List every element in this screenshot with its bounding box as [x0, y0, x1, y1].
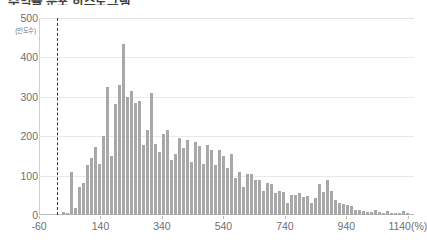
histogram-bar — [362, 211, 365, 215]
histogram-bar — [246, 174, 249, 215]
histogram-bar — [398, 213, 401, 215]
y-axis-tick-label: 100 — [4, 171, 38, 181]
histogram-bar — [374, 210, 377, 215]
y-axis-tick-label: 500 — [4, 13, 38, 23]
histogram-bar — [282, 192, 285, 215]
histogram-bar — [202, 164, 205, 215]
histogram-bar — [62, 212, 65, 215]
y-axis-tick-label: 200 — [4, 131, 38, 141]
histogram-bar — [154, 144, 157, 215]
x-axis-tick — [39, 216, 40, 219]
histogram-bar — [74, 208, 77, 215]
histogram-bar — [130, 91, 133, 215]
histogram-bar — [198, 146, 201, 215]
y-axis: (빈도수) 0100200300400500 — [0, 0, 38, 242]
histogram-bar — [94, 147, 97, 215]
histogram-bar — [278, 191, 281, 215]
histogram-bar — [350, 206, 353, 215]
gridline — [39, 136, 414, 137]
histogram-bar — [178, 138, 181, 215]
histogram-bar — [106, 87, 109, 215]
histogram-bar — [218, 150, 221, 215]
histogram-bar — [330, 191, 333, 215]
histogram-bar — [162, 134, 165, 215]
histogram-bar — [406, 213, 409, 215]
histogram-bar — [274, 193, 277, 215]
x-axis-tick-label: 940 — [338, 220, 356, 232]
gridline — [39, 18, 414, 19]
y-axis-tick-label: 0 — [4, 210, 38, 220]
histogram-bar — [298, 193, 301, 215]
x-axis-tick — [223, 216, 224, 219]
histogram-bar — [354, 210, 357, 215]
histogram-bar — [262, 191, 265, 215]
histogram-bar — [286, 203, 289, 215]
histogram-bar — [306, 196, 309, 215]
histogram-bar — [342, 204, 345, 215]
y-axis-tick-label: 400 — [4, 52, 38, 62]
histogram-bar — [318, 184, 321, 215]
histogram-bar — [222, 156, 225, 215]
y-axis-tick-label: 300 — [4, 92, 38, 102]
x-axis: -601403405407409401140(%) — [39, 216, 414, 242]
histogram-bar — [370, 212, 373, 215]
gridline — [39, 57, 414, 58]
histogram-bar — [394, 213, 397, 215]
histogram-bar — [142, 145, 145, 215]
histogram-bar — [114, 104, 117, 216]
histogram-bar — [186, 140, 189, 215]
histogram-bar — [146, 130, 149, 215]
histogram-bar — [346, 205, 349, 215]
histogram-bar — [194, 142, 197, 215]
histogram-bar — [294, 195, 297, 215]
x-axis-tick — [162, 216, 163, 219]
x-axis-tick-label: -60 — [31, 220, 46, 232]
histogram-bar — [170, 160, 173, 215]
histogram-bar — [302, 197, 305, 215]
histogram-bar — [226, 168, 229, 215]
x-axis-tick-label: 340 — [153, 220, 171, 232]
histogram-bar — [66, 213, 69, 215]
histogram-bar — [338, 203, 341, 215]
histogram-bar — [82, 183, 85, 215]
histogram-bar — [126, 97, 129, 215]
y-axis-line — [39, 18, 40, 215]
x-axis-tick-label: 540 — [215, 220, 233, 232]
histogram-bar — [118, 85, 121, 215]
histogram-bar — [134, 103, 137, 215]
histogram-bar — [310, 203, 313, 215]
histogram-bar — [150, 93, 153, 215]
histogram-bar — [358, 210, 361, 215]
histogram-bar — [98, 164, 101, 215]
histogram-bar — [322, 192, 325, 215]
histogram-bar — [214, 165, 217, 215]
histogram-bar — [138, 101, 141, 215]
histogram-bar — [290, 195, 293, 215]
histogram-bar — [314, 198, 317, 215]
y-axis-unit-label: (빈도수) — [2, 25, 36, 35]
histogram-bar — [158, 152, 161, 215]
histogram-bar — [86, 165, 89, 215]
x-axis-tick — [100, 216, 101, 219]
x-axis-tick — [408, 216, 409, 219]
histogram-bar — [386, 211, 389, 215]
histogram-bar — [382, 213, 385, 215]
histogram-bar — [206, 145, 209, 215]
histogram-bar — [238, 172, 241, 215]
histogram-bar — [242, 187, 245, 215]
x-axis-tick — [285, 216, 286, 219]
x-axis-tick-label: 140 — [92, 220, 110, 232]
histogram-bar — [402, 211, 405, 215]
histogram-bar — [122, 44, 125, 215]
histogram-bar — [230, 154, 233, 215]
histogram-bar — [182, 148, 185, 215]
histogram-bar — [70, 172, 73, 215]
x-axis-tick — [346, 216, 347, 219]
histogram-bar — [110, 156, 113, 215]
histogram-bar — [190, 162, 193, 215]
x-axis-tick-label: 740 — [276, 220, 294, 232]
histogram-bar — [174, 154, 177, 215]
histogram-bar — [258, 180, 261, 215]
histogram-bar — [270, 184, 273, 215]
